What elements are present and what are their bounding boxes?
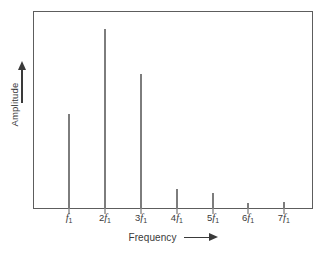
x-axis-title: Frequency <box>33 228 313 246</box>
x-axis-tick-label: 7f1 <box>278 212 290 227</box>
x-axis-tick-label: 2f1 <box>99 212 111 227</box>
spectral-line-bar <box>140 74 142 209</box>
x-axis-tick-label: 4f1 <box>171 212 183 227</box>
spectral-line-bar <box>283 202 285 209</box>
spectral-line-bar <box>176 189 178 209</box>
spectral-line-bar <box>212 193 214 209</box>
x-axis-title-label: Frequency <box>128 232 176 243</box>
arrow-right-icon <box>184 233 218 242</box>
spectral-line-bar <box>104 29 106 209</box>
x-axis-tick-label: f1 <box>66 212 73 227</box>
x-axis-tick-label: 6f1 <box>242 212 254 227</box>
y-axis-title: Amplitude <box>0 55 33 175</box>
y-axis-title-label: Amplitude <box>9 65 20 145</box>
bars-layer <box>33 11 313 209</box>
x-axis-tick-labels: f12f13f14f15f16f17f1 <box>33 212 313 228</box>
x-axis-tick-label: 5f1 <box>207 212 219 227</box>
spectral-line-bar <box>68 114 70 209</box>
harmonic-spectrum-figure: f12f13f14f15f16f17f1 Frequency Amplitude <box>0 0 328 253</box>
x-axis-tick-label: 3f1 <box>135 212 147 227</box>
